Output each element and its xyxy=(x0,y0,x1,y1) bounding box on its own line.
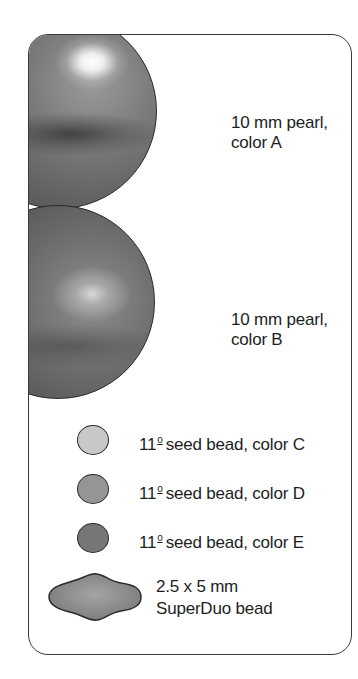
legend-frame: 10 mm pearl, color A 10 mm pearl, color … xyxy=(28,34,352,655)
seed-bead-color-c-swatch xyxy=(77,425,109,455)
superduo-size-text: 2.5 x 5 mm xyxy=(156,576,273,598)
seed-bead-color-e-label: 11oseed bead, color E xyxy=(139,528,304,553)
seed-d-text: seed bead, color D xyxy=(166,484,305,503)
seed-d-superscript: o xyxy=(157,483,162,494)
seed-c-text: seed bead, color C xyxy=(166,435,305,454)
seed-c-superscript: o xyxy=(157,434,162,445)
superduo-name-text: SuperDuo bead xyxy=(156,598,273,620)
seed-d-number: 11 xyxy=(139,484,156,503)
seed-bead-color-c-label: 11oseed bead, color C xyxy=(139,430,305,455)
pearl-b-color-text: color B xyxy=(231,330,328,350)
seed-bead-color-d-label: 11oseed bead, color D xyxy=(139,479,305,504)
seed-bead-color-e-swatch xyxy=(77,523,109,553)
seed-bead-color-d-swatch xyxy=(77,474,109,504)
seed-e-text: seed bead, color E xyxy=(166,533,304,552)
seed-c-number: 11 xyxy=(139,435,156,454)
pearl-b-size-text: 10 mm pearl, xyxy=(231,310,328,330)
pearl-color-a-label: 10 mm pearl, color A xyxy=(231,113,328,153)
seed-e-superscript: o xyxy=(157,532,162,543)
superduo-bead-label: 2.5 x 5 mm SuperDuo bead xyxy=(156,576,273,620)
pearl-color-b-swatch xyxy=(28,205,155,399)
pearl-a-size-text: 10 mm pearl, xyxy=(231,113,328,133)
pearl-color-a-swatch xyxy=(28,34,157,209)
pearl-color-b-label: 10 mm pearl, color B xyxy=(231,310,328,350)
seed-e-number: 11 xyxy=(139,533,156,552)
superduo-bead-swatch xyxy=(45,571,145,623)
pearl-a-color-text: color A xyxy=(231,133,328,153)
